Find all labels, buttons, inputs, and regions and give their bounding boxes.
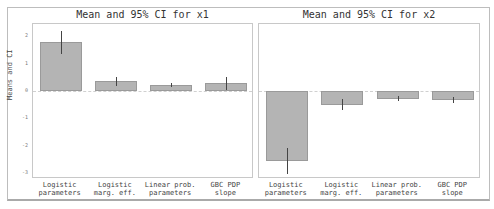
chart-title-x2: Mean and 95% CI for x2 <box>258 9 480 20</box>
x-tick-label: GBC PDPslope <box>422 181 482 197</box>
y-axis-label: Means and CI <box>6 49 14 100</box>
error-bar <box>61 31 62 54</box>
error-bar <box>398 96 399 100</box>
error-bar <box>171 83 172 88</box>
chart-title-x1: Mean and 95% CI for x1 <box>32 9 253 20</box>
error-bar <box>453 97 454 103</box>
error-bar <box>342 99 343 110</box>
x-tick-label: Linear prob.parameters <box>140 181 200 197</box>
error-bar <box>226 77 227 89</box>
y-tick-label: -1 <box>18 114 28 120</box>
y-tick-label: 0 <box>18 87 28 93</box>
x-tick-label: Logisticparameters <box>30 181 90 197</box>
y-tick-label: 2 <box>18 32 28 38</box>
y-tick-label: 1 <box>18 60 28 66</box>
x-tick-label: Linear prob.parameters <box>367 181 427 197</box>
y-tick-label: -3 <box>18 169 28 175</box>
axes-x1 <box>32 23 253 178</box>
error-bar <box>287 148 288 174</box>
error-bar <box>116 77 117 86</box>
x-tick-label: Logisticmarg. eff. <box>85 181 145 197</box>
x-tick-label: GBC PDPslope <box>195 181 255 197</box>
x-tick-label: Logisticmarg. eff. <box>311 181 371 197</box>
y-tick-label: -2 <box>18 142 28 148</box>
x-tick-label: Logisticparameters <box>256 181 316 197</box>
axes-x2 <box>258 23 480 178</box>
zero-line <box>33 91 252 92</box>
